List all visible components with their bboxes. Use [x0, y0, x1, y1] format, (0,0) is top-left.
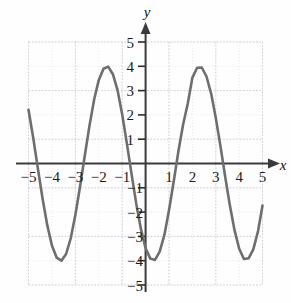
- y-tick-label: 5: [127, 35, 135, 51]
- x-tick-label: 3: [212, 169, 220, 185]
- coordinate-plane-svg: −5 −4 −3 −2 −1 1 2 3 4 5 5 4 3 2 1 −1 −2…: [0, 0, 291, 303]
- x-tick-label: −5: [21, 169, 37, 185]
- x-tick-label: 5: [259, 169, 267, 185]
- y-tick-label: 1: [127, 132, 135, 148]
- y-tick-label: 2: [127, 107, 135, 123]
- y-axis-label: y: [142, 4, 151, 20]
- x-tick-label: −4: [44, 169, 60, 185]
- y-tick-label: −4: [127, 253, 143, 269]
- y-tick-label: −1: [127, 180, 143, 196]
- x-axis-label: x: [279, 157, 287, 173]
- x-tick-label: 4: [235, 169, 243, 185]
- y-tick-label: −3: [127, 229, 143, 245]
- x-tick-label: −3: [67, 169, 83, 185]
- y-tick-label: 3: [127, 83, 135, 99]
- x-tick-label: −2: [91, 169, 107, 185]
- y-tick-label: 4: [127, 59, 135, 75]
- y-tick-label: −5: [127, 278, 143, 294]
- graph-figure: −5 −4 −3 −2 −1 1 2 3 4 5 5 4 3 2 1 −1 −2…: [0, 0, 291, 303]
- x-tick-label: 1: [165, 169, 173, 185]
- x-tick-label: 2: [189, 169, 197, 185]
- y-tick-label: −2: [127, 205, 143, 221]
